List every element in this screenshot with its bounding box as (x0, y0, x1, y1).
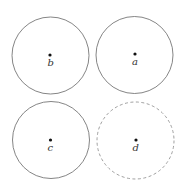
diagram-canvas: b a c d (0, 0, 188, 189)
circle-c-group: c (13, 102, 90, 179)
label-b: b (48, 57, 54, 68)
label-c: c (48, 142, 54, 153)
circle-b-group: b (12, 17, 89, 94)
circle-a-group: a (96, 17, 173, 94)
circle-d-group: d (97, 102, 174, 179)
label-a: a (132, 56, 138, 67)
label-d: d (133, 142, 139, 153)
